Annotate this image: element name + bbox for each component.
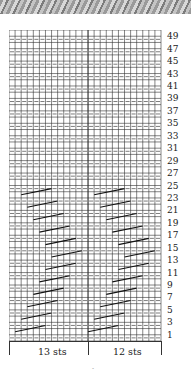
row-label: 5 bbox=[167, 306, 173, 315]
row-label: 39 bbox=[167, 94, 178, 103]
fabric-photo-strip bbox=[0, 0, 191, 14]
row-label: 21 bbox=[167, 206, 178, 215]
row-label: 47 bbox=[167, 45, 178, 54]
row-label: 31 bbox=[167, 144, 178, 153]
section-tick-right bbox=[161, 341, 162, 355]
row-label: 3 bbox=[167, 318, 173, 327]
row-label: 1 bbox=[167, 331, 173, 340]
row-label: 15 bbox=[167, 244, 178, 253]
row-label: 33 bbox=[167, 132, 178, 141]
row-label: 41 bbox=[167, 82, 178, 91]
row-label: 23 bbox=[167, 194, 178, 203]
row-label: 37 bbox=[167, 107, 178, 116]
row-label: 25 bbox=[167, 182, 178, 191]
section-label-12: 12 sts bbox=[113, 346, 142, 357]
knitting-chart-grid bbox=[9, 30, 162, 342]
section-tick-middle bbox=[88, 341, 89, 355]
row-label: 13 bbox=[167, 256, 178, 265]
row-label: 19 bbox=[167, 219, 178, 228]
row-label: 49 bbox=[167, 32, 178, 41]
row-label: 45 bbox=[167, 57, 178, 66]
page-mark: - bbox=[92, 364, 94, 371]
row-label: 17 bbox=[167, 231, 178, 240]
section-label-13: 13 sts bbox=[38, 346, 67, 357]
row-label: 35 bbox=[167, 119, 178, 128]
chart-baseline bbox=[9, 341, 161, 342]
row-label: 11 bbox=[167, 269, 178, 278]
row-label: 27 bbox=[167, 169, 178, 178]
row-label: 7 bbox=[167, 293, 173, 302]
row-label: 43 bbox=[167, 70, 178, 79]
section-tick-left bbox=[9, 341, 10, 355]
row-label: 9 bbox=[167, 281, 173, 290]
row-label: 29 bbox=[167, 157, 178, 166]
